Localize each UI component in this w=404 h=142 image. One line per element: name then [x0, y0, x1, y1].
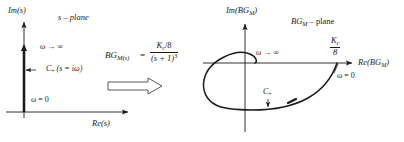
s-plane-real-axis-label-arg: (s) — [101, 118, 110, 128]
bgm-plane-gain-numerator-subscript: c — [337, 40, 340, 46]
s-plane-real-axis-label: Re(s) — [92, 119, 110, 128]
bgm-plane-nyquist-curve — [204, 52, 338, 110]
s-plane-imaginary-axis-label: Im(s) — [8, 6, 26, 15]
s-plane-title: s – plane — [58, 13, 89, 22]
maps-to-arrow — [108, 78, 162, 94]
s-plane-contour-label-paren: (s = iω) — [57, 64, 83, 73]
bgm-plane-imaginary-axis-label: Im(BGM) — [226, 6, 257, 16]
transfer-function-lhs-subscript: M(s) — [117, 54, 129, 61]
s-plane-omega-infinity-arrowhead — [21, 44, 27, 51]
s-plane-omega-zero-label: ω = 0 — [31, 96, 49, 104]
transfer-function-numerator: Kc/8 — [150, 41, 178, 51]
bgm-plane-omega-zero-label: ω = 0 — [337, 72, 355, 80]
bgm-plane-title: BGM – plane — [291, 17, 334, 27]
bgm-plane-title-main: BG — [291, 16, 302, 26]
transfer-function-equals: = — [140, 51, 145, 60]
bgm-plane-omega-infinity-label: ω → ∞ — [256, 49, 279, 57]
s-plane-contour-label: C+ (s = iω) — [46, 65, 82, 74]
bgm-plane-real-axis-label-end: ) — [386, 57, 389, 67]
s-plane-imaginary-axis-label-pre: Im — [8, 5, 17, 15]
bgm-plane-direction-tick — [288, 99, 296, 103]
bgm-plane-real-axis-label-pre: Re — [358, 57, 367, 67]
transfer-function-denominator-base: (s + 1) — [151, 53, 174, 63]
transfer-function-lhs: BGM(s) — [105, 51, 129, 61]
bgm-plane-real-axis-label-main: (BG — [367, 57, 381, 67]
transfer-function-denominator: (s + 1)3 — [150, 53, 178, 63]
nyquist-mapping-figure: Im(s) s – plane ω → ∞ C+ (s = iω) ω = 0 … — [0, 0, 404, 142]
bgm-plane-title-rest: – plane — [307, 16, 334, 26]
s-plane-contour-label-subscript: + — [51, 68, 54, 74]
bgm-plane-real-axis-label: Re(BGM) — [358, 58, 389, 68]
bgm-plane-imaginary-axis-label-main: (BG — [235, 5, 249, 15]
bgm-plane-gain-fraction: Kc 8 — [330, 36, 340, 57]
transfer-function-numerator-rest: /8 — [165, 40, 172, 50]
transfer-function-lhs-main: BG — [105, 50, 117, 60]
bgm-plane-imaginary-axis-label-pre: Im — [226, 5, 235, 15]
bgm-plane-contour-label: C+ — [263, 88, 272, 97]
transfer-function-fraction: Kc/8 (s + 1)3 — [150, 41, 178, 63]
bgm-plane-gain-numerator: Kc — [330, 36, 340, 46]
bgm-plane-imaginary-axis-label-end: ) — [254, 5, 257, 15]
s-plane-real-axis-label-pre: Re — [92, 118, 101, 128]
s-plane-omega-infinity-label: ω → ∞ — [40, 43, 63, 51]
transfer-function-denominator-exponent: 3 — [174, 53, 177, 59]
s-plane-imaginary-axis-label-arg: (s) — [17, 5, 26, 15]
bgm-plane-contour-label-subscript: + — [268, 91, 271, 97]
bgm-plane-gain-denominator: 8 — [330, 48, 340, 57]
